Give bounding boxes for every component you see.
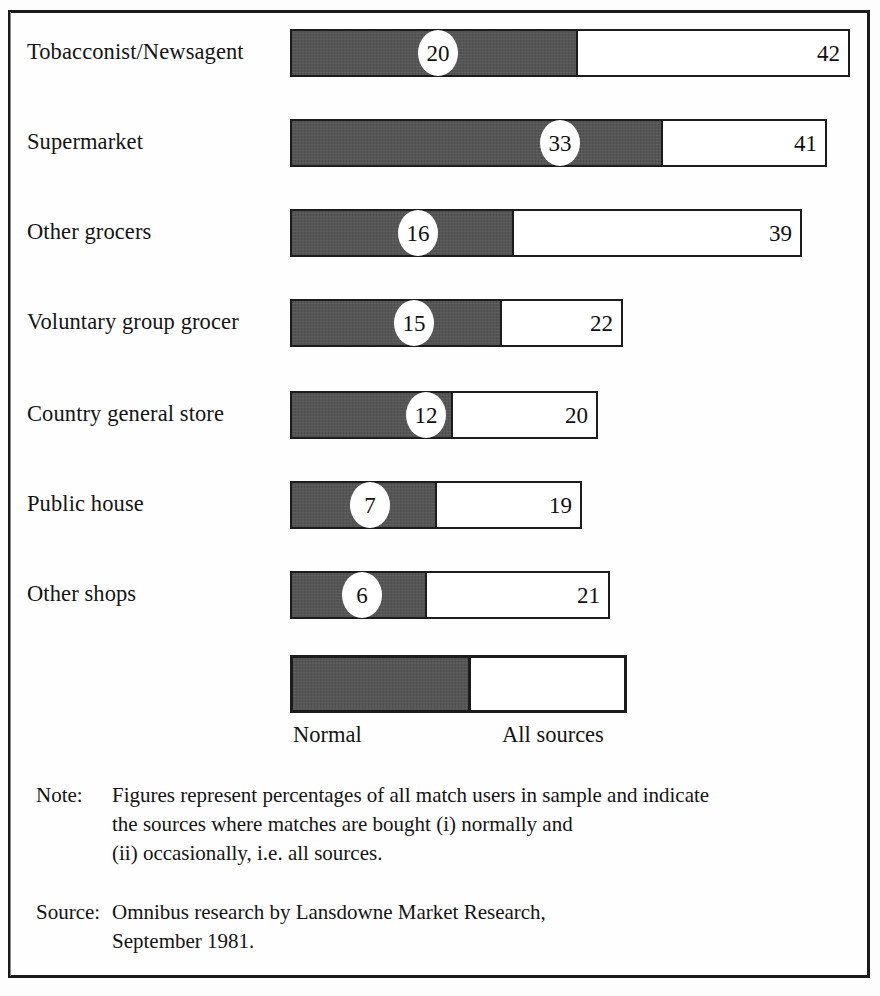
stacked-bar: 2215	[290, 299, 623, 347]
chart-row: Other shops216	[0, 562, 880, 626]
normal-value-badge: 33	[540, 120, 580, 166]
chart-row: Country general store2012	[0, 382, 880, 446]
category-label: Country general store	[27, 382, 277, 446]
stacked-bar: 4220	[290, 29, 850, 77]
chart-row: Supermarket4133	[0, 110, 880, 174]
note-text: Figures represent percentages of all mat…	[112, 781, 709, 868]
legend-normal-swatch	[290, 655, 471, 713]
all-sources-value: 42	[817, 42, 840, 65]
legend-label-normal: Normal	[293, 722, 362, 748]
note-line: (ii) occasionally, i.e. all sources.	[112, 839, 709, 868]
chart-row: Tobacconist/Newsagent4220	[0, 20, 880, 84]
category-label: Other shops	[27, 562, 277, 626]
note-line: the sources where matches are bought (i)…	[112, 810, 709, 839]
normal-value-badge: 7	[350, 482, 390, 528]
stacked-bar: 3916	[290, 209, 802, 257]
chart-page: Tobacconist/Newsagent4220Supermarket4133…	[0, 0, 880, 996]
source-line: September 1981.	[112, 927, 546, 956]
all-sources-value: 39	[769, 222, 792, 245]
category-label: Public house	[27, 472, 277, 536]
legend-label-all-sources: All sources	[502, 722, 604, 748]
chart-row: Voluntary group grocer2215	[0, 290, 880, 354]
normal-value-badge: 15	[394, 300, 434, 346]
category-label: Other grocers	[27, 200, 277, 264]
all-sources-value: 41	[794, 132, 817, 155]
stacked-bar: 4133	[290, 119, 827, 167]
normal-value-badge: 20	[418, 30, 458, 76]
note-block: Note: Figures represent percentages of a…	[36, 781, 836, 868]
bar-segment-normal	[290, 119, 663, 167]
source-block: Source: Omnibus research by Lansdowne Ma…	[36, 898, 836, 956]
category-label: Voluntary group grocer	[27, 290, 277, 354]
all-sources-value: 20	[565, 404, 588, 427]
stacked-bar: 197	[290, 481, 582, 529]
category-label: Supermarket	[27, 110, 277, 174]
stacked-bar: 2012	[290, 391, 598, 439]
all-sources-value: 19	[549, 494, 572, 517]
chart-row: Public house197	[0, 472, 880, 536]
normal-value-badge: 12	[406, 392, 446, 438]
source-label: Source:	[36, 898, 112, 927]
stacked-bar: 216	[290, 571, 610, 619]
note-label: Note:	[36, 781, 112, 810]
all-sources-value: 21	[577, 584, 600, 607]
chart-row: Other grocers3916	[0, 200, 880, 264]
all-sources-value: 22	[590, 312, 613, 335]
source-text: Omnibus research by Lansdowne Market Res…	[112, 898, 546, 956]
category-label: Tobacconist/Newsagent	[27, 20, 277, 84]
normal-value-badge: 16	[398, 210, 438, 256]
normal-value-badge: 6	[342, 572, 382, 618]
note-line: Figures represent percentages of all mat…	[112, 781, 709, 810]
source-line: Omnibus research by Lansdowne Market Res…	[112, 898, 546, 927]
